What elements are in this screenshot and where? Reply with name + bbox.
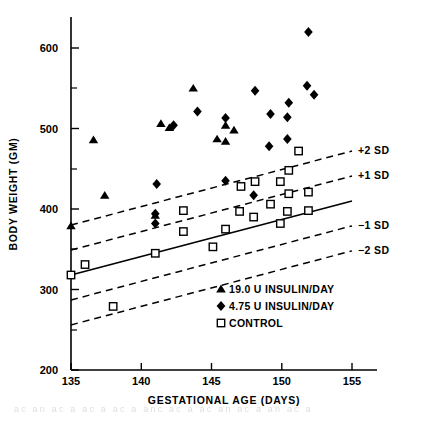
data-point-square — [267, 200, 274, 207]
data-point-square — [251, 178, 258, 185]
data-point-diamond — [249, 190, 258, 200]
legend-label-control: CONTROL — [229, 317, 283, 329]
data-point-diamond — [221, 113, 230, 123]
data-point-square — [67, 271, 74, 278]
data-point-diamond — [265, 141, 274, 151]
legend-marker-diamond — [217, 301, 226, 311]
data-point-square — [209, 243, 216, 250]
reference-lines — [71, 151, 352, 325]
legend-label-low-dose: 4.75 U INSULIN/DAY — [229, 300, 334, 312]
legend-marker-triangle — [216, 285, 226, 293]
data-point-triangle — [189, 84, 198, 92]
x-tick-label-145: 145 — [202, 375, 220, 387]
data-point-triangle — [89, 135, 98, 143]
x-tick-label-155: 155 — [343, 375, 361, 387]
y-tick-label-300: 300 — [40, 284, 58, 296]
data-point-square — [284, 208, 291, 215]
data-point-diamond — [284, 98, 293, 108]
data-point-diamond — [251, 86, 260, 96]
legend-label-high-dose: 19.0 U INSULIN/DAY — [229, 283, 334, 295]
sd-label-plus2: +2 SD — [358, 144, 389, 156]
data-point-square — [285, 167, 292, 174]
axis-group — [71, 17, 377, 370]
data-point-square — [295, 147, 302, 154]
sd-label-minus2: −2 SD — [358, 244, 389, 256]
figure-container: 600 500 400 300 200 135 140 145 150 155 … — [0, 0, 431, 423]
y-tick-label-500: 500 — [40, 123, 58, 135]
x-tick-label-135: 135 — [62, 375, 80, 387]
x-tick-label-150: 150 — [273, 375, 291, 387]
data-point-square — [250, 213, 257, 220]
data-point-diamond — [266, 109, 275, 119]
data-point-square — [81, 261, 88, 268]
data-point-square — [305, 207, 312, 214]
y-axis-title: BODY WEIGHT (GM) — [7, 137, 19, 250]
data-point-diamond — [303, 81, 312, 91]
data-point-square — [305, 188, 312, 195]
legend: 19.0 U INSULIN/DAY 4.75 U INSULIN/DAY CO… — [216, 283, 334, 329]
sd-label-minus1: −1 SD — [358, 219, 389, 231]
data-point-square — [222, 225, 229, 232]
data-point-square — [109, 303, 116, 310]
page-caption-fragment: ac an ac a ac a ac a anc ac a ac an ac a… — [14, 404, 418, 418]
data-point-triangle — [100, 191, 109, 199]
scatter-plot: 600 500 400 300 200 135 140 145 150 155 … — [0, 0, 431, 423]
data-point-diamond — [283, 112, 292, 122]
data-point-square — [180, 228, 187, 235]
data-point-square — [285, 190, 292, 197]
legend-marker-group — [216, 285, 226, 327]
data-point-square — [236, 208, 243, 215]
y-tick-label-600: 600 — [40, 42, 58, 54]
data-point-triangle — [212, 135, 221, 143]
data-point-square — [237, 183, 244, 190]
data-point-square — [180, 207, 187, 214]
data-point-diamond — [304, 27, 313, 37]
legend-marker-square — [217, 319, 224, 326]
data-point-diamond — [283, 134, 292, 144]
data-point-triangle — [221, 137, 230, 145]
data-point-diamond — [152, 179, 161, 189]
data-point-diamond — [310, 90, 319, 100]
data-point-square — [277, 178, 284, 185]
sd-label-plus1: +1 SD — [358, 169, 389, 181]
data-point-square — [277, 220, 284, 227]
data-point-square — [152, 250, 159, 257]
y-tick-label-400: 400 — [40, 203, 58, 215]
data-point-triangle — [66, 222, 75, 230]
data-point-triangle — [229, 126, 238, 134]
data-point-triangle — [156, 119, 165, 127]
y-tick-label-200: 200 — [40, 364, 58, 376]
x-tick-label-140: 140 — [132, 375, 150, 387]
data-point-diamond — [193, 107, 202, 117]
